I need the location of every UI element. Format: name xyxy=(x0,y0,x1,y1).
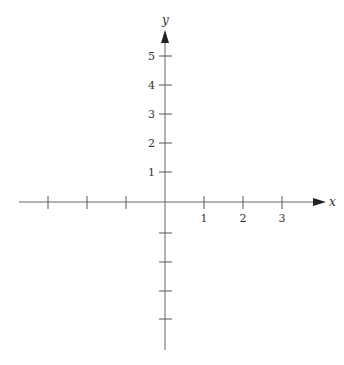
y-tick-label-1: 1 xyxy=(148,166,155,179)
x-tick-label-1: 1 xyxy=(201,212,208,225)
y-axis-label: y xyxy=(161,13,169,27)
x-axis-arrow-icon xyxy=(313,198,326,206)
x-tick-label-2: 2 xyxy=(240,212,247,225)
y-axis-arrow-icon xyxy=(161,30,169,43)
y-tick-label-3: 3 xyxy=(148,108,155,121)
y-tick-label-4: 4 xyxy=(148,79,155,92)
y-tick-label-5: 5 xyxy=(148,50,155,63)
y-tick-label-2: 2 xyxy=(148,137,155,150)
coordinate-plane: x y 1 2 3 1 2 3 4 5 xyxy=(0,0,344,365)
x-axis-label: x xyxy=(329,195,336,209)
x-tick-label-3: 3 xyxy=(279,212,286,225)
